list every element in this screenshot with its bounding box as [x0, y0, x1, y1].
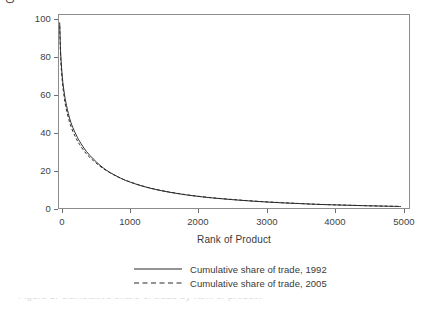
series-line-1992	[60, 22, 401, 206]
x-axis-tick-mark	[62, 209, 63, 213]
y-axis-tick: 60	[40, 90, 58, 100]
x-axis-tick: 3000	[237, 209, 297, 227]
x-axis-title: Rank of Product	[58, 234, 410, 245]
x-axis-tick-label: 4000	[305, 216, 365, 227]
x-axis-tick-label: 0	[32, 216, 92, 227]
y-axis-title: Cumulative Share of Trade	[4, 0, 17, 40]
legend-item-2005: Cumulative share of trade, 2005	[58, 276, 410, 290]
x-axis-tick: 4000	[305, 209, 365, 227]
y-axis-tick-label: 80	[40, 52, 51, 62]
y-axis-tick-label: 40	[40, 128, 51, 138]
y-axis-tick-label: 60	[40, 90, 51, 100]
x-axis-tick-label: 5000	[374, 216, 430, 227]
y-axis-tick: 80	[40, 52, 58, 62]
legend-label: Cumulative share of trade, 1992	[190, 264, 327, 275]
series-line-2005	[60, 26, 401, 206]
x-axis-tick-label: 1000	[100, 216, 160, 227]
legend-line-solid-icon	[134, 264, 182, 274]
x-axis-tick-mark	[267, 209, 268, 213]
legend-item-1992: Cumulative share of trade, 1992	[58, 262, 410, 276]
x-axis-tick-mark	[198, 209, 199, 213]
x-axis-tick: 5000	[374, 209, 430, 227]
y-axis-tick: 40	[40, 128, 58, 138]
x-axis-tick: 2000	[168, 209, 228, 227]
y-axis-tick-label: 20	[40, 166, 51, 176]
x-axis-tick: 1000	[100, 209, 160, 227]
x-axis-tick-mark	[404, 209, 405, 213]
x-axis-tick: 0	[32, 209, 92, 227]
chart-legend: Cumulative share of trade, 1992 Cumulati…	[58, 262, 410, 290]
x-axis-tick-mark	[335, 209, 336, 213]
x-axis-tick-label: 3000	[237, 216, 297, 227]
legend-label: Cumulative share of trade, 2005	[190, 278, 327, 289]
x-axis-tick-mark	[130, 209, 131, 213]
y-axis-tick: 100	[35, 14, 58, 24]
caption-remnant: Figure 1. Cumulative share of trade by r…	[18, 298, 308, 309]
y-axis: Cumulative Share of Trade 100 80 60 40 2…	[0, 0, 58, 309]
figure-container: Cumulative Share of Trade 100 80 60 40 2…	[0, 0, 430, 309]
legend-line-dashed-icon	[134, 278, 182, 288]
y-axis-tick-label: 100	[35, 14, 51, 24]
x-axis-tick-label: 2000	[168, 216, 228, 227]
y-axis-tick: 20	[40, 166, 58, 176]
plot-area	[58, 14, 410, 209]
caption-remnant-text: Figure 1. Cumulative share of trade by r…	[18, 298, 262, 301]
plot-curves	[59, 15, 409, 208]
